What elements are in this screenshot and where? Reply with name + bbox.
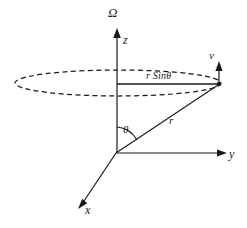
angular-velocity-label: Ω bbox=[108, 6, 117, 19]
orbit-ellipse bbox=[15, 70, 221, 96]
projection-radius-label: r Sinθ bbox=[146, 71, 171, 81]
velocity-label: v bbox=[209, 50, 214, 61]
radius-label: r bbox=[169, 115, 173, 126]
y-axis-arrowhead bbox=[217, 149, 227, 156]
physics-diagram-figure: Ω z v r Sinθ r θ y x bbox=[0, 0, 247, 228]
radius-vector-line bbox=[116, 85, 218, 153]
particle-point-marker bbox=[217, 82, 221, 86]
x-axis-label: x bbox=[85, 204, 90, 216]
z-axis-arrowhead bbox=[113, 28, 121, 38]
velocity-arrowhead bbox=[215, 61, 222, 71]
y-axis-label: y bbox=[229, 148, 234, 160]
x-axis-line bbox=[84, 153, 116, 201]
polar-angle-label: θ bbox=[123, 124, 128, 135]
z-axis-label: z bbox=[123, 34, 128, 46]
